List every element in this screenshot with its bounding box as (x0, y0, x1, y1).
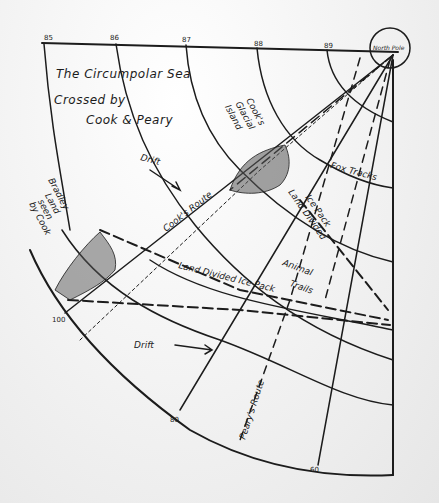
title-line-3: Cook & Peary (86, 113, 173, 127)
lat-arc-87 (186, 45, 393, 262)
drift-label-lower: Drift (134, 340, 154, 350)
drift-arrow-lower (175, 345, 212, 354)
peary-dashed-2 (325, 60, 390, 300)
title-line-1: The Circumpolar Sea (56, 67, 191, 81)
tick-85: 85 (44, 34, 53, 42)
map-drawing: 85 86 87 88 89 100 80 60 North Pole The … (0, 0, 439, 503)
tick-86: 86 (110, 34, 119, 42)
north-pole-label: North Pole (373, 44, 405, 51)
cooks-route-label: Cook's Route (161, 189, 214, 234)
pearys-route-label: Peary's Route (237, 378, 266, 441)
cooks-return-line (68, 300, 390, 325)
drift-label-upper: Drift (139, 152, 161, 167)
tick-100: 100 (52, 316, 65, 324)
tick-80: 80 (170, 416, 179, 424)
tick-88: 88 (254, 40, 263, 48)
fox-tracks-label: Fox Tracks (329, 160, 378, 182)
hand-drawn-map: 85 86 87 88 89 100 80 60 North Pole The … (0, 0, 439, 503)
tick-60: 60 (310, 466, 319, 474)
title-line-2: Crossed by (54, 93, 126, 107)
tick-87: 87 (182, 36, 191, 44)
drift-arrow-upper (150, 170, 180, 190)
bradley-land-shape (55, 232, 116, 300)
tick-89: 89 (324, 42, 333, 50)
cooks-glacial-island-label: Cook's Glacial Island (223, 93, 267, 138)
top-border-line (42, 43, 398, 52)
land-divided-ice-pack-label-2: Land Divided Ice Pack (178, 260, 277, 294)
